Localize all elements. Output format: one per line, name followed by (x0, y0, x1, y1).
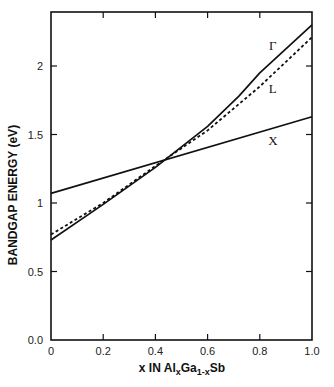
y-tick-label: 0.5 (28, 266, 43, 278)
plot-area: 00.20.40.60.81.00.00.511.52 (28, 12, 320, 357)
bandgap-chart: 00.20.40.60.81.00.00.511.52 ΓLX BANDGAP … (0, 0, 334, 387)
curve-x (51, 117, 312, 194)
x-axis-label: x IN AlxGa1-xSb (139, 361, 225, 377)
curve-label: X (268, 133, 278, 148)
curve-label: Γ (269, 38, 277, 53)
y-tick-label: 1.5 (28, 129, 43, 141)
x-tick-label: 0.6 (200, 345, 215, 357)
labels: ΓLX (268, 38, 278, 148)
y-axis-label: BANDGAP ENERGY (eV) (6, 125, 20, 265)
curve-label: L (269, 81, 277, 96)
x-tick-label: 0.8 (252, 345, 267, 357)
y-tick-label: 1 (37, 197, 43, 209)
y-tick-label: 0.0 (28, 334, 43, 346)
x-tick-label: 0 (48, 345, 54, 357)
y-tick-label: 2 (37, 60, 43, 72)
x-tick-label: 0.2 (96, 345, 111, 357)
x-tick-label: 1.0 (304, 345, 319, 357)
x-tick-label: 0.4 (148, 345, 163, 357)
